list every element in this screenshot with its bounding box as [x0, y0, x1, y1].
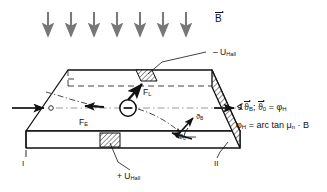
u-hall-bottom-sub: Hall [130, 175, 140, 181]
formula-line-1: ∢ϑB; ϑ0 = φH [236, 103, 287, 113]
force-electric-label: FE [79, 118, 88, 128]
formula-times-b: · B [297, 120, 309, 130]
formula-theta-b: ϑ [244, 103, 249, 112]
force-electric-sub: E [84, 121, 88, 127]
angle-theta-0-sub: 0 [183, 136, 186, 141]
formula-arctan-mu: arc tan μ [256, 120, 291, 130]
u-hall-bottom-main: + U [117, 171, 130, 181]
formula-theta-0: ϑ [258, 103, 263, 112]
slab-front-face [26, 131, 240, 148]
formula-angle-symbol: ∢ [236, 102, 244, 112]
angle-theta-0-label: ϑ0 [179, 133, 186, 142]
formula-line-2: φH = arc tan μn · B [236, 121, 309, 131]
formula-phi-h-1-sub: H [282, 106, 286, 112]
formula-equals-2: = [249, 120, 254, 130]
slab-top-face [26, 70, 240, 131]
b-field-arrow-group [48, 12, 186, 36]
u-hall-bottom-label: + UHall [117, 172, 140, 182]
formula-equals-1: = [269, 102, 274, 112]
contact-1-label: I [22, 160, 24, 168]
angle-theta-b-label: ϑB [196, 113, 203, 122]
b-field-label: B [215, 14, 222, 24]
contact-2-label: II [214, 160, 218, 168]
drift-arrow-fe [85, 106, 104, 107]
figure-canvas [0, 0, 327, 192]
force-lorentz-label: FL [143, 88, 151, 98]
force-lorentz-sub: L [148, 91, 151, 97]
u-hall-top-label: – UHall [213, 48, 236, 58]
formula-phi-h-2-sub: H [242, 124, 246, 130]
u-hall-top-sub: Hall [226, 51, 236, 57]
entry-point-marker [49, 106, 54, 111]
formula-separator: ; [253, 102, 256, 112]
hall-electrode-bottom [100, 133, 120, 147]
formula-mu-sub: n [292, 124, 295, 130]
formula-theta-0-sub: 0 [263, 106, 266, 112]
u-hall-top-main: – U [213, 47, 226, 57]
angle-theta-b-sub: B [200, 116, 203, 121]
b-field-label-text: B [215, 14, 222, 24]
hall-effect-figure: B – UHall + UHall FL FE J I II ϑB ϑ0 ∢ϑB… [0, 0, 327, 192]
